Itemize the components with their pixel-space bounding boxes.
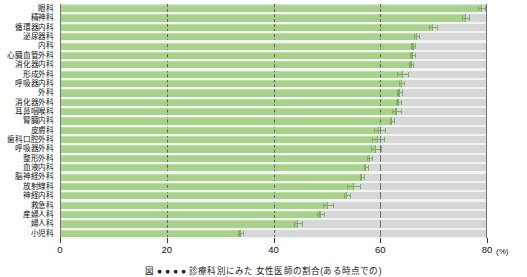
category-label: 心臓血管外科 — [0, 51, 57, 60]
category-label: 形成外科 — [0, 70, 57, 79]
error-bar-cap — [243, 231, 244, 236]
row-separator — [60, 153, 486, 155]
error-bar-cap — [478, 6, 479, 11]
error-bar-cap — [437, 25, 438, 30]
x-axis-tick-labels: 020406080(%) — [0, 244, 527, 258]
row-separator — [60, 134, 486, 136]
category-label: 消化器内科 — [0, 60, 57, 69]
row-separator — [60, 115, 486, 117]
row-separator — [60, 125, 486, 127]
error-bar-cap — [384, 137, 385, 142]
error-bar-cap — [408, 72, 409, 77]
figure-caption: 図 ● ● ● ● 診療科別にみた 女性医師の割合(ある時点での) — [0, 264, 527, 277]
error-bar-cap — [302, 221, 303, 226]
error-bar-cap — [347, 184, 348, 189]
error-bar-cap — [317, 212, 318, 217]
error-bar-cap — [429, 25, 430, 30]
error-bar-cap — [364, 174, 365, 179]
error-bar-cap — [323, 203, 324, 208]
error-bar-cap — [469, 15, 470, 20]
row-separator — [60, 68, 486, 70]
error-bar-cap — [401, 100, 402, 105]
error-bar-cap — [415, 53, 416, 58]
row-separator — [60, 181, 486, 183]
category-label: 精神科 — [0, 13, 57, 22]
y-axis-line — [60, 4, 61, 238]
category-label: 皮膚科 — [0, 126, 57, 135]
row-separator — [60, 59, 486, 61]
error-bar-cap — [372, 137, 373, 142]
error-bar-cap — [374, 128, 375, 133]
gridline-40 — [274, 4, 275, 238]
error-bar-cap — [372, 156, 373, 161]
row-separator — [60, 162, 486, 164]
row-separator — [60, 22, 486, 24]
category-label: 小児科 — [0, 229, 57, 238]
error-bar-cap — [392, 109, 393, 114]
x-tick-label: 0 — [57, 244, 62, 255]
category-label: 産婦人科 — [0, 210, 57, 219]
error-bar-cap — [419, 34, 420, 39]
row-separator — [60, 228, 486, 230]
row-separator — [60, 87, 486, 89]
row-separator — [60, 40, 486, 42]
error-bar-cap — [371, 146, 372, 151]
chart-figure: 眼科精神科循環器内科泌尿器科内科心臓血管外科消化器内科形成外科呼吸器内科外科消化… — [0, 0, 527, 277]
plot-area — [60, 4, 487, 238]
category-label: 腎臓内科 — [0, 116, 57, 125]
gridline-20 — [167, 4, 168, 238]
row-separator — [60, 31, 486, 33]
error-bar-cap — [368, 165, 369, 170]
error-bar-cap — [394, 118, 395, 123]
row-separator — [60, 209, 486, 211]
error-bar-cap — [360, 184, 361, 189]
x-axis-unit-label: (%) — [496, 247, 508, 256]
category-label: 呼吸器内科 — [0, 79, 57, 88]
error-bar-cap — [462, 15, 463, 20]
error-bar-cap — [324, 212, 325, 217]
x-tick-label: 80 — [482, 244, 493, 255]
category-label: 内科 — [0, 41, 57, 50]
category-label: 神経内科 — [0, 191, 57, 200]
category-label: 眼科 — [0, 4, 57, 13]
x-tick-0 — [60, 238, 61, 243]
category-label: 外科 — [0, 88, 57, 97]
x-tick-label: 20 — [161, 244, 172, 255]
row-separator — [60, 143, 486, 145]
row-separator — [60, 190, 486, 192]
x-tick-80 — [487, 238, 488, 243]
x-tick-40 — [274, 238, 275, 243]
error-bar-cap — [350, 193, 351, 198]
x-tick-60 — [380, 238, 381, 243]
row-separator — [60, 218, 486, 220]
category-label: 婦人科 — [0, 219, 57, 228]
y-axis-category-labels: 眼科精神科循環器内科泌尿器科内科心臓血管外科消化器内科形成外科呼吸器内科外科消化… — [0, 4, 57, 238]
category-label: 脳神経外科 — [0, 172, 57, 181]
error-bar-cap — [397, 72, 398, 77]
error-bar-cap — [401, 109, 402, 114]
x-tick-label: 60 — [375, 244, 386, 255]
row-separator — [60, 97, 486, 99]
category-label: 呼吸器外科 — [0, 144, 57, 153]
category-label: 放射線科 — [0, 182, 57, 191]
row-separator — [60, 171, 486, 173]
error-bar-cap — [415, 43, 416, 48]
error-bar-cap — [385, 128, 386, 133]
x-tick-20 — [167, 238, 168, 243]
category-label: 消化器外科 — [0, 98, 57, 107]
category-label: 循環器内科 — [0, 23, 57, 32]
category-label: 耳鼻咽喉科 — [0, 107, 57, 116]
x-tick-label: 40 — [268, 244, 279, 255]
row-separator — [60, 12, 486, 14]
error-bar-cap — [404, 81, 405, 86]
row-separator — [60, 78, 486, 80]
error-bar-cap — [333, 203, 334, 208]
row-separator — [60, 50, 486, 52]
error-bar-cap — [294, 221, 295, 226]
category-label: 救急科 — [0, 201, 57, 210]
error-bar-cap — [402, 90, 403, 95]
row-separator — [60, 106, 486, 108]
error-bar-cap — [485, 6, 486, 11]
category-label: 歯科口腔外科 — [0, 135, 57, 144]
category-label: 整形外科 — [0, 154, 57, 163]
